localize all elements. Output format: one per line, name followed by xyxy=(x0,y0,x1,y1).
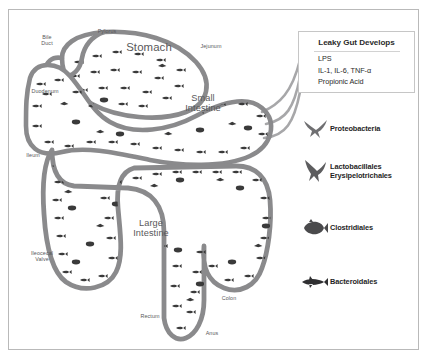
leaky-gut-panel: Leaky Gut Develops LPS IL-1, IL-6, TNF-α… xyxy=(298,31,415,93)
label-ileum: Ileum xyxy=(18,152,48,158)
leaky-gut-divider xyxy=(314,51,400,52)
label-pylorus: Pylorus xyxy=(88,28,126,34)
swift-bird-icon xyxy=(299,114,330,144)
large-intestine-organ xyxy=(43,150,271,339)
legend-label-bacteroidales: Bacteroidales xyxy=(330,277,377,286)
label-jejunum: Jejunum xyxy=(192,43,230,49)
round-fish-icon xyxy=(299,213,330,243)
label-small-intestine: Small Intestine xyxy=(176,93,230,114)
legend-entry-proteobacteria: Proteobacteria xyxy=(299,114,427,144)
figure-canvas: Bile Duct Pylorus Stomach Jejunum Duoden… xyxy=(0,0,429,361)
legend-label-lactobacillales: Lactobacillales Erysipelotrichales xyxy=(330,162,392,181)
legend-entry-bacteroidales: Bacteroidales xyxy=(299,267,427,297)
label-colon: Colon xyxy=(214,295,244,301)
leaky-gut-item-lps: LPS xyxy=(318,54,414,63)
legend-label-proteobacteria: Proteobacteria xyxy=(330,124,380,133)
label-stomach: Stomach xyxy=(118,41,180,54)
label-bile-duct: Bile Duct xyxy=(30,34,64,46)
label-large-intestine: Large Intestine xyxy=(122,218,180,239)
legend-entry-lactobacillales: Lactobacillales Erysipelotrichales xyxy=(299,156,427,186)
label-ileocecal-valve: Ileocecal Valve xyxy=(20,250,64,262)
slender-fish-icon xyxy=(299,267,330,297)
label-duodenum: Duodenum xyxy=(22,88,68,94)
label-anus: Anus xyxy=(198,330,226,336)
soaring-bird-icon xyxy=(299,156,330,186)
label-rectum: Rectum xyxy=(133,313,167,319)
leaky-gut-title: Leaky Gut Develops xyxy=(299,32,414,47)
leaky-gut-item-cytokines: IL-1, IL-6, TNF-α xyxy=(318,66,414,75)
legend-label-clostridiales: Clostridiales xyxy=(330,223,373,232)
legend-entry-clostridiales: Clostridiales xyxy=(299,213,427,243)
leaky-gut-item-propionic-acid: Propionic Acid xyxy=(318,77,414,86)
